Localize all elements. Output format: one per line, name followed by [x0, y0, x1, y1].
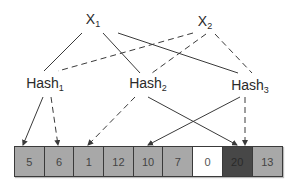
edge-x2-hash2 [152, 34, 206, 73]
array-cell: 5 [15, 147, 45, 176]
edge-hash1-cell5 [23, 97, 43, 145]
array-cell: 13 [253, 147, 283, 176]
edge-hash1-cell6 [51, 97, 58, 145]
edge-hash2-cell1 [88, 97, 135, 145]
input-subscript: 2 [207, 21, 212, 31]
hash-label: Hash [231, 77, 264, 93]
counter-array: 5 6 1 12 10 7 0 20 13 [14, 146, 283, 177]
hash-label: Hash [129, 75, 162, 91]
hash-label: Hash [26, 75, 59, 91]
array-cell: 7 [163, 147, 193, 176]
array-cell: 6 [45, 147, 75, 176]
input-subscript: 1 [95, 19, 100, 29]
hash-subscript: 1 [59, 83, 64, 93]
input-node-x2: X2 [198, 13, 212, 31]
edge-x1-hash1 [44, 33, 82, 71]
edge-x1-hash3 [118, 33, 238, 73]
input-label: X [86, 11, 95, 27]
array-cell: 12 [104, 147, 134, 176]
hash-subscript: 2 [162, 83, 167, 93]
hash-node-2: Hash2 [129, 75, 167, 93]
array-cell: 10 [134, 147, 164, 176]
array-cell: 1 [74, 147, 104, 176]
hash-node-1: Hash1 [26, 75, 64, 93]
hash-node-3: Hash3 [231, 77, 269, 95]
edge-x2-hash1 [58, 33, 193, 71]
array-cell-empty: 0 [193, 147, 223, 176]
array-cell-highlighted: 20 [223, 147, 253, 176]
input-node-x1: X1 [86, 11, 100, 29]
hash-subscript: 3 [264, 85, 269, 95]
input-label: X [198, 13, 207, 29]
